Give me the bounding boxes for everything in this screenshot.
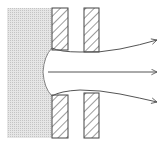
- second-electrode-bottom: [84, 93, 99, 138]
- extraction-diagram: [0, 0, 161, 150]
- first-electrode-bottom: [52, 95, 68, 138]
- diagram-canvas: [0, 0, 161, 150]
- plasma-region: [7, 8, 52, 138]
- second-electrode-top: [84, 8, 99, 52]
- first-electrode-top: [52, 8, 68, 50]
